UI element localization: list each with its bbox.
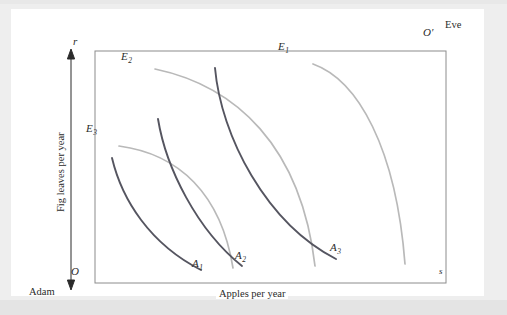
background-band-bottom <box>0 300 507 315</box>
curve-label-E1: E1 <box>278 40 288 52</box>
adam-origin-label: O <box>71 265 79 277</box>
edgeworth-box-svg <box>11 9 484 296</box>
curve-label-E3: E3 <box>86 122 96 134</box>
figure-panel: r O s O′ Eve Adam Apples per year Fig le… <box>11 9 484 296</box>
curve-A3 <box>215 68 336 259</box>
eve-origin-label: O′ <box>423 26 433 38</box>
horizontal-axis-tick-s: s <box>439 266 443 276</box>
x-axis-label: Apples per year <box>216 288 288 299</box>
adam-name-label: Adam <box>29 286 55 297</box>
y-axis-label: Fig leaves per year <box>55 129 66 215</box>
background-band-top <box>0 0 507 4</box>
curve-E2 <box>155 69 315 266</box>
eve-indifference-curves <box>119 64 405 268</box>
adam-indifference-curves <box>112 68 336 270</box>
curve-E3 <box>119 146 233 268</box>
y-axis-arrow <box>67 49 74 290</box>
figure-root: r O s O′ Eve Adam Apples per year Fig le… <box>0 0 507 315</box>
eve-name-label: Eve <box>445 19 461 30</box>
curve-label-A2: A2 <box>235 249 245 261</box>
curve-label-E2: E2 <box>121 50 131 62</box>
vertical-axis-tick-r: r <box>73 35 77 47</box>
edgeworth-box-frame <box>95 51 446 283</box>
curve-E1 <box>313 64 405 264</box>
curve-A1 <box>112 158 201 270</box>
curve-A2 <box>158 119 242 266</box>
curve-label-A3: A3 <box>330 241 340 253</box>
curve-label-A1: A1 <box>192 257 202 269</box>
